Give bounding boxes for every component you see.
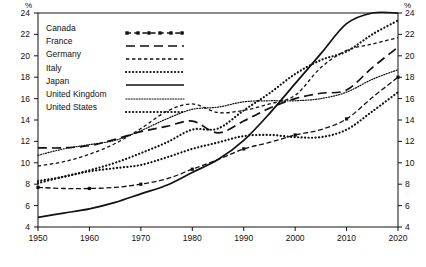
y-axis-tick-label-right: 8 [405,180,421,189]
y-axis-tick-label-right: 22 [405,30,421,39]
legend-item-japan[interactable]: Japan [46,75,190,88]
y-axis-tick-label: 20 [14,52,30,61]
legend-item-united-states[interactable]: United States [46,101,190,114]
y-axis-ticks-left [34,13,38,227]
y-axis-tick-label-right: 14 [405,116,421,125]
legend-item-germany[interactable]: Germany [46,48,190,61]
y-axis-tick-label-right: 16 [405,95,421,104]
y-axis-tick-label: 24 [14,9,30,18]
y-axis-tick-label: 4 [14,223,30,232]
legend-item-label: Italy [46,64,124,73]
y-axis-tick-label-right: 24 [405,9,421,18]
x-axis-tick-label: 2020 [383,234,413,243]
legend-item-united-kingdom[interactable]: United Kingdom [46,88,190,101]
y-axis-tick-label: 22 [14,30,30,39]
chart-container: % % 4681012141618202224 4681012141618202… [0,0,426,267]
y-axis-tick-label: 10 [14,159,30,168]
y-axis-tick-label: 18 [14,73,30,82]
y-axis-tick-label-right: 20 [405,52,421,61]
x-axis-tick-label: 2000 [280,234,310,243]
y-axis-ticks-right [398,13,402,227]
legend-item-label: United Kingdom [46,90,124,99]
legend-item-label: Canada [46,24,124,33]
y-axis-tick-label-right: 6 [405,202,421,211]
legend: CanadaFranceGermanyItalyJapanUnited King… [46,22,190,114]
y-axis-tick-label-right: 10 [405,159,421,168]
uk-swatch [124,90,186,100]
x-axis-tick-label: 1990 [229,234,259,243]
x-axis-tick-label: 1960 [74,234,104,243]
y-axis-tick-label: 14 [14,116,30,125]
legend-item-label: Germany [46,50,124,59]
y-axis-tick-label-right: 18 [405,73,421,82]
italy-swatch [124,63,186,73]
y-axis-tick-label-right: 4 [405,223,421,232]
x-axis-tick-label: 1950 [23,234,53,243]
x-axis-tick-label: 2010 [332,234,362,243]
y-axis-tick-label: 16 [14,95,30,104]
legend-item-france[interactable]: France [46,35,190,48]
y-axis-tick-label: 6 [14,202,30,211]
legend-item-label: France [46,37,124,46]
france-swatch [124,37,186,47]
x-axis-tick-label: 1980 [177,234,207,243]
canada-swatch [124,24,186,34]
legend-item-canada[interactable]: Canada [46,22,190,35]
legend-item-italy[interactable]: Italy [46,62,190,75]
y-axis-tick-label-right: 12 [405,137,421,146]
y-axis-tick-label: 8 [14,180,30,189]
x-axis-tick-label: 1970 [126,234,156,243]
y-axis-tick-label: 12 [14,137,30,146]
us-swatch [124,103,186,113]
japan-swatch [124,76,186,86]
legend-item-label: Japan [46,77,124,86]
x-axis-ticks [38,227,398,231]
legend-item-label: United States [46,103,124,112]
germany-swatch [124,50,186,60]
